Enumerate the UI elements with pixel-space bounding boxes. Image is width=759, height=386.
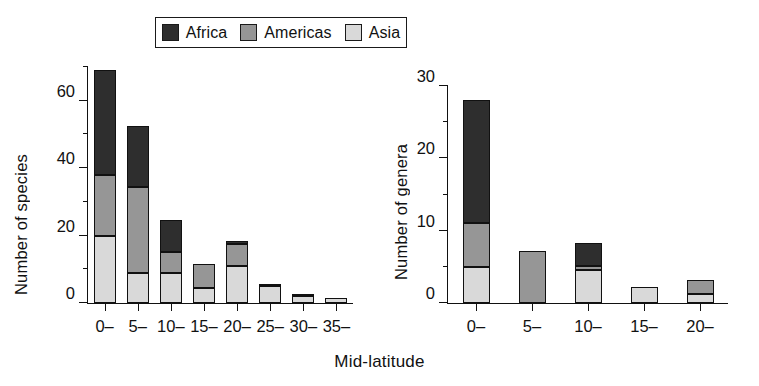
y-tick-genera-15 bbox=[443, 194, 448, 195]
x-tick-species-7 bbox=[336, 303, 337, 311]
bar-segment-genera-4-americas bbox=[687, 280, 714, 294]
bar-segment-genera-2-asia bbox=[575, 270, 602, 303]
legend-entry-asia: Asia bbox=[345, 24, 401, 41]
y-tick-species-70 bbox=[83, 66, 88, 67]
bar-segment-species-3-americas bbox=[193, 264, 215, 288]
y-tick-label-species-0: 0 bbox=[66, 284, 75, 303]
bar-species-1 bbox=[127, 67, 149, 303]
bar-segment-species-3-asia bbox=[193, 288, 215, 303]
bar-segment-genera-0-asia bbox=[463, 267, 490, 303]
x-tick-species-4 bbox=[237, 303, 238, 311]
bar-segment-species-1-africa bbox=[127, 126, 149, 187]
legend-label-asia: Asia bbox=[369, 25, 401, 41]
bar-segment-genera-3-asia bbox=[631, 287, 658, 303]
y-tick-genera-30 bbox=[439, 85, 448, 86]
x-tick-label-species-4: 20– bbox=[223, 317, 251, 336]
bar-genera-0 bbox=[463, 86, 490, 303]
y-tick-species-0 bbox=[79, 302, 88, 303]
y-tick-genera-5 bbox=[443, 266, 448, 267]
x-tick-genera-0 bbox=[476, 303, 477, 311]
bar-segment-species-4-americas bbox=[226, 244, 248, 266]
x-tick-species-2 bbox=[171, 303, 172, 311]
y-tick-genera-20 bbox=[439, 157, 448, 158]
bar-segment-genera-2-americas bbox=[575, 266, 602, 270]
bar-genera-4 bbox=[687, 86, 714, 303]
y-tick-species-30 bbox=[83, 201, 88, 202]
x-tick-species-5 bbox=[270, 303, 271, 311]
legend-label-americas: Americas bbox=[264, 25, 331, 41]
y-tick-species-40 bbox=[79, 167, 88, 168]
bar-genera-2 bbox=[575, 86, 602, 303]
africa-swatch bbox=[162, 24, 179, 41]
bar-species-7 bbox=[325, 67, 347, 303]
bar-segment-species-5-africa bbox=[259, 284, 281, 286]
x-tick-label-species-6: 30– bbox=[290, 317, 318, 336]
x-tick-genera-2 bbox=[588, 303, 589, 311]
y-tick-species-20 bbox=[79, 235, 88, 236]
plot-area-species: 02040600–5–10–15–20–25–30–35– bbox=[87, 67, 353, 304]
y-tick-species-10 bbox=[83, 268, 88, 269]
x-tick-species-6 bbox=[303, 303, 304, 311]
bar-segment-species-7-asia bbox=[325, 298, 347, 303]
x-tick-label-species-0: 0– bbox=[95, 317, 113, 336]
bar-segment-species-4-africa bbox=[226, 241, 248, 244]
y-axis-label-species: Number of species bbox=[12, 65, 31, 295]
bar-species-0 bbox=[94, 67, 116, 303]
bar-segment-species-1-asia bbox=[127, 273, 149, 303]
x-axis-title: Mid-latitude bbox=[0, 352, 759, 372]
bar-segment-species-1-americas bbox=[127, 187, 149, 273]
y-tick-label-species-60: 60 bbox=[57, 81, 75, 100]
x-tick-species-1 bbox=[138, 303, 139, 311]
x-tick-label-genera-0: 0– bbox=[467, 317, 485, 336]
plot-area-genera: 01020300–5–10–15–20– bbox=[447, 86, 728, 304]
bar-species-3 bbox=[193, 67, 215, 303]
bar-segment-genera-2-africa bbox=[575, 243, 602, 266]
bar-segment-species-2-asia bbox=[160, 273, 182, 303]
y-tick-label-species-40: 40 bbox=[57, 149, 75, 168]
asia-swatch bbox=[345, 24, 362, 41]
legend-label-africa: Africa bbox=[186, 25, 228, 41]
x-tick-label-genera-4: 20– bbox=[686, 317, 714, 336]
y-tick-genera-10 bbox=[439, 230, 448, 231]
y-tick-genera-25 bbox=[443, 121, 448, 122]
bar-genera-3 bbox=[631, 86, 658, 303]
x-tick-label-species-2: 10– bbox=[157, 317, 185, 336]
x-tick-label-species-3: 15– bbox=[190, 317, 218, 336]
bar-segment-species-6-asia bbox=[292, 296, 314, 303]
bar-species-2 bbox=[160, 67, 182, 303]
bar-segment-species-2-africa bbox=[160, 220, 182, 252]
bar-segment-genera-1-americas bbox=[519, 251, 546, 303]
bar-segment-species-0-americas bbox=[94, 175, 116, 236]
x-tick-species-3 bbox=[204, 303, 205, 311]
bar-segment-genera-0-americas bbox=[463, 223, 490, 266]
chart-panel-species: Number of species 02040600–5–10–15–20–25… bbox=[0, 55, 370, 355]
x-tick-species-0 bbox=[105, 303, 106, 311]
x-tick-label-species-7: 35– bbox=[323, 317, 351, 336]
bar-segment-species-6-americas bbox=[292, 294, 314, 296]
x-tick-genera-4 bbox=[700, 303, 701, 311]
bar-segment-species-0-asia bbox=[94, 236, 116, 303]
x-tick-genera-1 bbox=[532, 303, 533, 311]
bar-segment-genera-0-africa bbox=[463, 100, 490, 223]
y-axis-label-genera: Number of genera bbox=[392, 85, 411, 280]
figure-root: Africa Americas Asia Number of species 0… bbox=[0, 0, 759, 386]
y-tick-species-60 bbox=[79, 100, 88, 101]
x-tick-label-species-5: 25– bbox=[256, 317, 284, 336]
chart-panel-genera: Number of genera 01020300–5–10–15–20– bbox=[380, 55, 759, 355]
y-tick-species-50 bbox=[83, 133, 88, 134]
bar-segment-species-0-africa bbox=[94, 70, 116, 175]
legend-entry-africa: Africa bbox=[162, 24, 228, 41]
bar-genera-1 bbox=[519, 86, 546, 303]
legend: Africa Americas Asia bbox=[155, 17, 407, 48]
americas-swatch bbox=[240, 24, 257, 41]
bar-segment-genera-4-asia bbox=[687, 294, 714, 303]
bar-segment-species-5-asia bbox=[259, 286, 281, 303]
y-tick-label-genera-0: 0 bbox=[426, 284, 435, 303]
y-tick-genera-0 bbox=[439, 302, 448, 303]
y-tick-label-species-20: 20 bbox=[57, 216, 75, 235]
y-tick-label-genera-20: 20 bbox=[417, 139, 435, 158]
bar-species-6 bbox=[292, 67, 314, 303]
y-tick-label-genera-30: 30 bbox=[417, 67, 435, 86]
x-tick-genera-3 bbox=[644, 303, 645, 311]
x-tick-label-genera-3: 15– bbox=[630, 317, 658, 336]
